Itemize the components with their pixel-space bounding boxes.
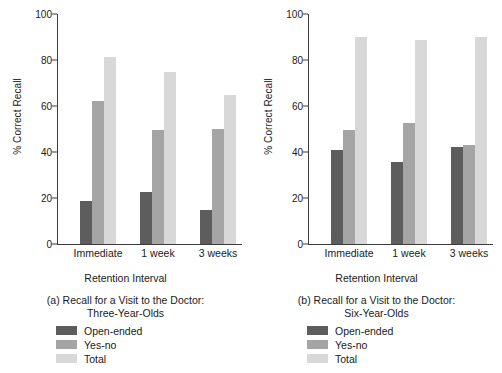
legend-swatch — [56, 354, 77, 363]
bar-group — [451, 14, 487, 244]
legend-item: Open-ended — [56, 324, 236, 337]
legend-b: Open-endedYes-noTotal — [307, 324, 487, 366]
panel-caption-line1-a: (a) Recall for a Visit to the Doctor: — [0, 294, 251, 307]
y-tick-mark — [303, 106, 308, 107]
legend-item: Yes-no — [56, 338, 236, 351]
legend-swatch — [56, 326, 77, 335]
legend-label: Yes-no — [335, 339, 367, 351]
y-tick-label: 0 — [22, 239, 52, 250]
y-tick-label: 40 — [273, 147, 303, 158]
x-category-label: Immediate — [324, 247, 373, 259]
y-tick-mark — [52, 106, 57, 107]
bar-group — [391, 14, 427, 244]
x-category-label: 3 weeks — [450, 247, 489, 259]
plot-area-b: % Correct Recall 020406080100 Immediate1… — [251, 0, 502, 262]
y-tick-label: 20 — [22, 193, 52, 204]
y-tick-label: 80 — [273, 55, 303, 66]
y-tick-label: 80 — [22, 55, 52, 66]
bar — [224, 95, 236, 245]
y-tick-label: 100 — [273, 9, 303, 20]
panel-caption-line1-b: (b) Recall for a Visit to the Doctor: — [251, 294, 502, 307]
y-tick-mark — [303, 14, 308, 15]
y-axis-label-text-a: % Correct Recall — [12, 78, 23, 155]
legend-label: Open-ended — [84, 325, 142, 337]
bar — [343, 130, 355, 244]
figure-container: % Correct Recall 020406080100 Immediate1… — [0, 0, 502, 373]
legend-swatch — [307, 340, 328, 349]
bar — [92, 101, 104, 244]
legend-swatch — [307, 354, 328, 363]
bar — [164, 72, 176, 245]
y-tick-mark — [303, 152, 308, 153]
legend-item: Total — [307, 352, 487, 365]
legend-swatch — [307, 326, 328, 335]
y-tick-mark — [52, 244, 57, 245]
panel-caption-line2-b: Six-Year-Olds — [251, 307, 502, 320]
legend-item: Yes-no — [307, 338, 487, 351]
bar — [331, 150, 343, 244]
y-axis-label-text-b: % Correct Recall — [263, 78, 274, 155]
bar-group — [200, 14, 236, 244]
bar — [415, 40, 427, 244]
y-tick-mark — [303, 244, 308, 245]
bar — [403, 123, 415, 244]
panel-caption-a: (a) Recall for a Visit to the Doctor: Th… — [0, 294, 251, 320]
y-tick-label: 60 — [273, 101, 303, 112]
chart-panel-a: % Correct Recall 020406080100 Immediate1… — [0, 0, 251, 373]
bar — [391, 162, 403, 244]
y-tick-mark — [52, 152, 57, 153]
x-axis-category-labels-b: Immediate1 week3 weeks — [309, 247, 493, 263]
bar-group — [140, 14, 176, 244]
legend-label: Total — [335, 353, 357, 365]
bar — [355, 37, 367, 244]
x-axis-category-labels-a: Immediate1 week3 weeks — [58, 247, 242, 263]
x-axis-label-a: Retention Interval — [0, 272, 251, 284]
bar-group — [80, 14, 116, 244]
y-tick-mark — [303, 198, 308, 199]
bar — [212, 129, 224, 244]
legend-a: Open-endedYes-noTotal — [56, 324, 236, 366]
bar — [104, 57, 116, 244]
legend-label: Open-ended — [335, 325, 393, 337]
y-tick-label: 60 — [22, 101, 52, 112]
panel-caption-b: (b) Recall for a Visit to the Doctor: Si… — [251, 294, 502, 320]
legend-item: Open-ended — [307, 324, 487, 337]
bars-container-a — [58, 14, 242, 244]
legend-label: Yes-no — [84, 339, 116, 351]
y-axis-tick-labels-b: 020406080100 — [273, 14, 303, 244]
y-axis-tick-labels-a: 020406080100 — [22, 14, 52, 244]
y-tick-label: 40 — [22, 147, 52, 158]
legend-label: Total — [84, 353, 106, 365]
bar — [475, 37, 487, 244]
bar — [140, 192, 152, 244]
y-tick-mark — [303, 60, 308, 61]
y-tick-label: 100 — [22, 9, 52, 20]
bar — [80, 201, 92, 244]
legend-swatch — [56, 340, 77, 349]
y-tick-mark — [52, 14, 57, 15]
legend-item: Total — [56, 352, 236, 365]
y-tick-label: 20 — [273, 193, 303, 204]
bar — [200, 210, 212, 245]
chart-panel-b: % Correct Recall 020406080100 Immediate1… — [251, 0, 502, 373]
bar — [463, 145, 475, 244]
y-tick-label: 0 — [273, 239, 303, 250]
x-axis-label-b: Retention Interval — [251, 272, 502, 284]
x-category-label: 3 weeks — [199, 247, 238, 259]
y-tick-mark — [52, 60, 57, 61]
x-category-label: 1 week — [392, 247, 425, 259]
bar — [451, 147, 463, 244]
bars-container-b — [309, 14, 493, 244]
bar-group — [331, 14, 367, 244]
x-category-label: 1 week — [141, 247, 174, 259]
panel-caption-line2-a: Three-Year-Olds — [0, 307, 251, 320]
x-axis-line-b — [308, 244, 493, 245]
x-category-label: Immediate — [73, 247, 122, 259]
y-tick-mark — [52, 198, 57, 199]
bar — [152, 130, 164, 244]
plot-area-a: % Correct Recall 020406080100 Immediate1… — [0, 0, 251, 262]
x-axis-line-a — [57, 244, 242, 245]
